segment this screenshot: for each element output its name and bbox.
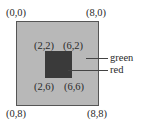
outer-corner-top-left-label: (0,0) — [6, 7, 26, 18]
red-label: red — [110, 64, 123, 75]
inner-square-red — [45, 51, 72, 78]
green-leader-line — [86, 58, 108, 59]
outer-corner-bottom-right-label: (8,8) — [87, 108, 107, 119]
inner-corner-bottom-right-label: (6,6) — [64, 81, 84, 92]
inner-corner-bottom-left-label: (2,6) — [34, 81, 54, 92]
red-leader-line — [68, 70, 108, 71]
green-label: green — [110, 52, 133, 63]
inner-corner-top-left-label: (2,2) — [34, 40, 54, 51]
outer-corner-bottom-left-label: (0,8) — [6, 108, 26, 119]
inner-corner-top-right-label: (6,2) — [63, 40, 83, 51]
outer-corner-top-right-label: (8,0) — [86, 7, 106, 18]
